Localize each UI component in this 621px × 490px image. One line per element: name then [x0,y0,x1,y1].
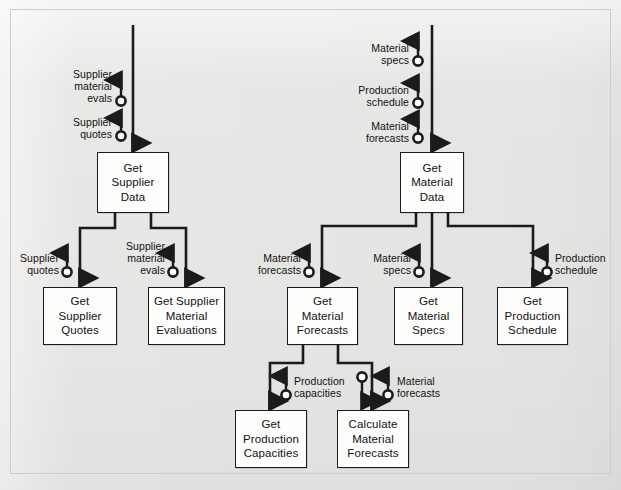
node-get-material-data[interactable]: Get Material Data [400,152,464,213]
flow-label-line: Production [290,84,409,96]
flow-label-material-forecasts-sub: Material forecasts [397,375,467,399]
flow-glyph-production-schedule-branch [542,253,551,277]
node-line: Supplier [59,309,102,324]
flow-label-material-specs-top: Material specs [290,42,409,66]
flow-glyph-material-forecasts-top [413,119,422,143]
flow-label-line: schedule [555,264,619,276]
node-calculate-material-forecasts[interactable]: Calculate Material Forecasts [337,410,409,468]
node-line: Calculate [349,417,398,432]
flow-label-line: Supplier [0,68,112,80]
node-line: Supplier [112,175,155,190]
flow-glyph-material-specs-top [413,41,422,66]
node-line: Get [419,294,438,309]
node-line: Capacities [244,446,299,461]
flow-label-production-capacities-sub: Production capacities [294,375,364,399]
node-line: Forecasts [297,323,348,338]
flow-glyph-supplier-quotes-top [116,118,125,141]
flow-label-material-specs-branch: Material specs [350,252,411,276]
flow-label-line: evals [104,264,165,276]
node-line: Specs [412,323,444,338]
flow-label-production-schedule-top: Production schedule [290,84,409,108]
node-get-supplier-material-evaluations[interactable]: Get Supplier Material Evaluations [148,287,225,345]
node-line: Get [124,161,143,176]
flow-glyph-material-forecasts-sub [383,376,392,400]
flow-label-line: schedule [290,96,409,108]
edge-material-data-to-schedule [448,213,533,278]
flow-glyph-supplier-material-evals-branch [168,253,177,277]
flow-label-line: forecasts [290,132,409,144]
flow-label-supplier-material-evals-top: Supplier material evals [0,68,112,105]
flow-label-line: capacities [294,387,364,399]
flow-glyph-production-capacities-sub [281,376,290,400]
node-get-supplier-data[interactable]: Get Supplier Data [97,152,169,213]
node-line: Get [313,294,332,309]
flow-label-line: Supplier [0,252,59,264]
flow-label-production-schedule-branch: Production schedule [555,252,619,276]
flow-label-line: Supplier [104,240,165,252]
node-line: Production [243,432,299,447]
flow-label-supplier-material-evals-branch: Supplier material evals [104,240,165,277]
node-line: Production [505,309,561,324]
flow-label-line: forecasts [397,387,467,399]
node-line: Data [420,190,445,205]
node-line: Get [423,161,442,176]
flow-label-material-forecasts-branch: Material forecasts [240,252,301,276]
flow-glyph-production-schedule-top [413,83,422,108]
flow-label-supplier-quotes-branch: Supplier quotes [0,252,59,276]
flow-label-line: forecasts [240,264,301,276]
node-line: Get [71,294,90,309]
flow-label-line: Supplier [0,116,112,128]
flow-label-line: Material [240,252,301,264]
node-line: Material [302,309,344,324]
node-line: Get [523,294,542,309]
node-get-material-specs[interactable]: Get Material Specs [394,287,463,345]
node-line: Evaluations [156,323,217,338]
node-get-production-capacities[interactable]: Get Production Capacities [235,410,307,468]
node-line: Data [121,190,146,205]
flow-label-line: Material [290,42,409,54]
flow-label-line: Production [294,375,364,387]
flow-label-line: Material [397,375,467,387]
flow-label-line: specs [350,264,411,276]
node-line: Material [408,309,450,324]
flow-glyph-material-specs-branch [414,253,423,277]
flow-label-line: material [0,80,112,92]
diagram-canvas: Get Supplier Data Get Material Data Get … [0,0,621,490]
flow-label-line: quotes [0,264,59,276]
flow-label-line: specs [290,54,409,66]
flow-label-material-forecasts-top: Material forecasts [290,120,409,144]
flow-label-line: quotes [0,128,112,140]
node-line: Material [352,432,394,447]
flow-label-line: evals [0,92,112,104]
node-get-supplier-quotes[interactable]: Get Supplier Quotes [43,287,117,345]
flow-glyph-supplier-material-evals-top [116,80,125,106]
flow-label-line: Material [290,120,409,132]
flow-label-supplier-quotes-top: Supplier quotes [0,116,112,140]
flow-label-line: Production [555,252,619,264]
node-line: Quotes [61,323,99,338]
flow-label-line: Material [350,252,411,264]
node-get-production-schedule[interactable]: Get Production Schedule [497,287,568,345]
node-line: Schedule [508,323,557,338]
flow-glyph-supplier-quotes-branch [62,253,71,277]
flow-label-line: material [104,252,165,264]
node-get-material-forecasts[interactable]: Get Material Forecasts [287,287,358,345]
node-line: Get Supplier [154,294,219,309]
node-line: Forecasts [347,446,398,461]
node-line: Material [166,309,208,324]
node-line: Material [411,175,453,190]
node-line: Get [262,417,281,432]
flow-glyph-material-forecasts-branch [304,253,313,277]
